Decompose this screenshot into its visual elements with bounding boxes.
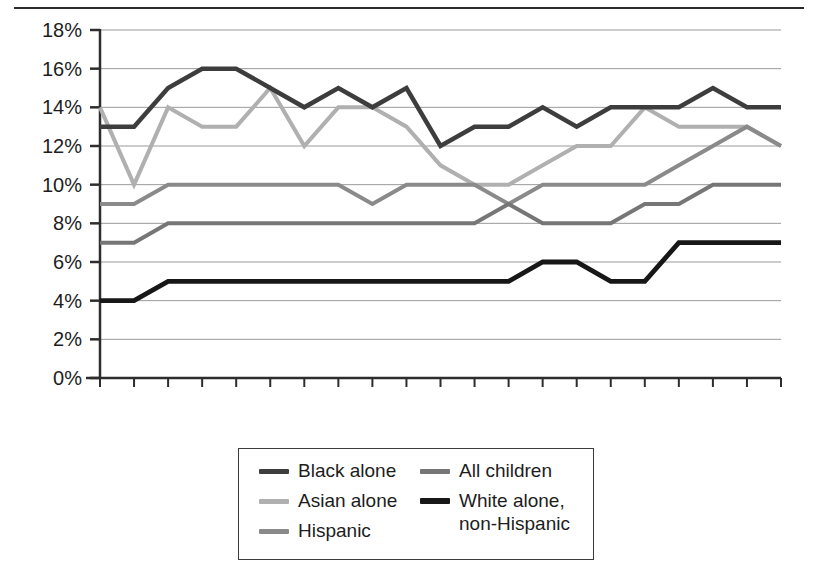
chart-figure: 0%2%4%6%8%10%12%14%16%18%199219952000200… bbox=[0, 0, 817, 572]
chart-legend: Black alone Asian alone Hispanic All chi… bbox=[238, 448, 594, 560]
top-divider-rule bbox=[14, 7, 804, 9]
legend-item-black-alone[interactable]: Black alone bbox=[259, 459, 416, 482]
y-tick-label: 2% bbox=[53, 328, 82, 350]
y-tick-label: 4% bbox=[53, 290, 82, 312]
legend-label-black-alone: Black alone bbox=[298, 459, 396, 482]
y-tick-label: 16% bbox=[42, 58, 82, 80]
legend-label-white-alone-non-hispanic: White alone, non-Hispanic bbox=[459, 489, 570, 535]
legend-label-all-children: All children bbox=[459, 459, 552, 482]
y-tick-label: 18% bbox=[42, 22, 82, 41]
legend-column-right: All children White alone, non-Hispanic bbox=[416, 459, 593, 559]
y-tick-label: 0% bbox=[53, 367, 82, 389]
legend-swatch-white-alone-non-hispanic bbox=[420, 498, 450, 504]
plot-area-wrapper: 0%2%4%6%8%10%12%14%16%18%199219952000200… bbox=[0, 22, 817, 392]
line-chart: 0%2%4%6%8%10%12%14%16%18%199219952000200… bbox=[0, 22, 817, 392]
legend-item-all-children[interactable]: All children bbox=[420, 459, 593, 482]
legend-item-white-alone-non-hispanic[interactable]: White alone, non-Hispanic bbox=[420, 489, 593, 535]
legend-swatch-black-alone bbox=[259, 469, 289, 474]
y-tick-label: 8% bbox=[53, 212, 82, 234]
series-line-all-children bbox=[100, 185, 781, 243]
y-tick-label: 6% bbox=[53, 251, 82, 273]
y-tick-label: 10% bbox=[42, 174, 82, 196]
legend-label-hispanic: Hispanic bbox=[298, 519, 371, 542]
legend-item-hispanic[interactable]: Hispanic bbox=[259, 519, 416, 542]
legend-column-left: Black alone Asian alone Hispanic bbox=[239, 459, 416, 559]
legend-label-asian-alone: Asian alone bbox=[298, 489, 397, 512]
y-tick-label: 12% bbox=[42, 135, 82, 157]
legend-swatch-hispanic bbox=[259, 529, 289, 534]
series-line-white-alone-non-hispanic bbox=[100, 243, 781, 301]
legend-swatch-all-children bbox=[420, 469, 450, 474]
y-tick-label: 14% bbox=[42, 96, 82, 118]
legend-item-asian-alone[interactable]: Asian alone bbox=[259, 489, 416, 512]
legend-swatch-asian-alone bbox=[259, 499, 289, 504]
series-line-asian-alone bbox=[100, 88, 781, 185]
